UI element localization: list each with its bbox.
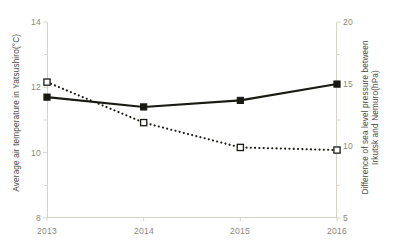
y-left-tick-8: 8 [19, 213, 41, 223]
chart-container: 14 12 10 8 20 15 10 5 2013 2014 2015 201… [0, 0, 395, 251]
y-axis-right-title: Difference of sea level pressure between… [361, 18, 380, 218]
y-axis-left-title: Average air temperature in Yatsushiro(°C… [12, 13, 22, 213]
y-left-tick-14: 14 [19, 17, 41, 27]
x-tick-2014: 2014 [124, 226, 164, 236]
x-tick-2013: 2013 [27, 226, 67, 236]
x-tick-2015: 2015 [220, 226, 260, 236]
y-left-tick-10: 10 [19, 148, 41, 158]
plot-area [47, 22, 337, 218]
x-tick-2016: 2016 [317, 226, 357, 236]
y-left-tick-12: 12 [19, 82, 41, 92]
